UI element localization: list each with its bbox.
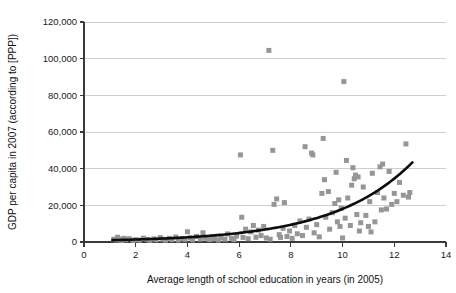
data-point-marker (361, 185, 366, 190)
data-point-marker (253, 235, 258, 240)
data-point-marker (303, 144, 308, 149)
x-tick-label: 10 (337, 249, 348, 260)
data-point-marker (282, 200, 287, 205)
data-point-marker (367, 199, 372, 204)
data-point-marker (241, 235, 246, 240)
data-point-marker (335, 219, 340, 224)
data-point-marker (238, 152, 243, 157)
data-point-marker (246, 236, 251, 241)
y-tick-label: 40,000 (48, 163, 77, 174)
data-point-marker (381, 196, 386, 201)
data-points (111, 48, 412, 243)
data-point-marker (300, 233, 305, 238)
data-point-marker (384, 207, 389, 212)
y-tick-label: 0 (72, 236, 77, 247)
data-point-marker (266, 48, 271, 53)
y-axis-title: GDP per capita in 2007 (according to [PP… (7, 34, 18, 230)
data-point-marker (310, 152, 315, 157)
data-point-marker (317, 234, 322, 239)
data-point-marker (349, 183, 354, 188)
data-point-marker (319, 191, 324, 196)
data-point-marker (337, 224, 342, 229)
data-point-marker (345, 196, 350, 201)
data-point-marker (200, 230, 205, 235)
data-point-marker (341, 79, 346, 84)
data-point-marker (295, 231, 300, 236)
x-tick-label: 14 (441, 249, 452, 260)
x-axis-title: Average length of school education in ye… (147, 274, 383, 285)
data-point-marker (363, 213, 368, 218)
data-point-marker (336, 197, 341, 202)
data-point-marker (406, 195, 411, 200)
data-point-marker (370, 171, 375, 176)
x-tick-label: 6 (236, 249, 241, 260)
data-point-marker (304, 225, 309, 230)
x-tick-label: 0 (81, 249, 86, 260)
chart-figure: 02468101214 020,00040,00060,00080,000100… (0, 0, 456, 293)
data-point-marker (284, 234, 289, 239)
data-point-marker (387, 169, 392, 174)
x-axis-ticks: 02468101214 (81, 242, 451, 260)
y-axis-ticks: 020,00040,00060,00080,000100,000120,000 (43, 16, 84, 247)
data-point-marker (380, 162, 385, 167)
data-point-marker (372, 219, 377, 224)
data-point-marker (379, 207, 384, 212)
data-point-marker (357, 229, 362, 234)
data-point-marker (334, 170, 339, 175)
data-point-marker (369, 229, 374, 234)
data-point-marker (389, 202, 394, 207)
y-tick-label: 120,000 (43, 16, 77, 27)
data-point-marker (268, 237, 273, 242)
x-tick-label: 4 (185, 249, 190, 260)
data-point-marker (278, 235, 283, 240)
data-point-marker (354, 212, 359, 217)
data-point-marker (185, 229, 190, 234)
data-point-marker (394, 199, 399, 204)
data-point-marker (343, 216, 348, 221)
data-point-marker (322, 177, 327, 182)
y-tick-label: 80,000 (48, 90, 77, 101)
data-point-marker (259, 233, 264, 238)
data-point-marker (314, 222, 319, 227)
data-point-marker (344, 158, 349, 163)
gridlines (84, 22, 446, 205)
data-point-marker (392, 191, 397, 196)
x-tick-label: 8 (288, 249, 293, 260)
data-point-marker (290, 236, 295, 241)
data-point-marker (251, 223, 256, 228)
data-point-marker (358, 220, 363, 225)
x-tick-label: 12 (389, 249, 400, 260)
y-tick-label: 100,000 (43, 53, 77, 64)
scatter-plot: 02468101214 020,00040,00060,00080,000100… (0, 0, 456, 293)
data-point-marker (327, 227, 332, 232)
x-tick-label: 2 (133, 249, 138, 260)
data-point-marker (397, 180, 402, 185)
data-point-marker (272, 202, 277, 207)
data-point-marker (312, 230, 317, 235)
data-point-marker (407, 190, 412, 195)
data-point-marker (403, 141, 408, 146)
data-point-marker (350, 165, 355, 170)
data-point-marker (366, 224, 371, 229)
data-point-marker (356, 174, 361, 179)
data-point-marker (287, 229, 292, 234)
data-point-marker (270, 148, 275, 153)
data-point-marker (274, 196, 279, 201)
data-point-marker (340, 235, 345, 240)
y-tick-label: 60,000 (48, 126, 77, 137)
data-point-marker (348, 223, 353, 228)
data-point-marker (239, 215, 244, 220)
data-point-marker (401, 193, 406, 198)
data-point-marker (222, 237, 227, 242)
data-point-marker (326, 189, 331, 194)
y-tick-label: 20,000 (48, 200, 77, 211)
data-point-marker (321, 136, 326, 141)
